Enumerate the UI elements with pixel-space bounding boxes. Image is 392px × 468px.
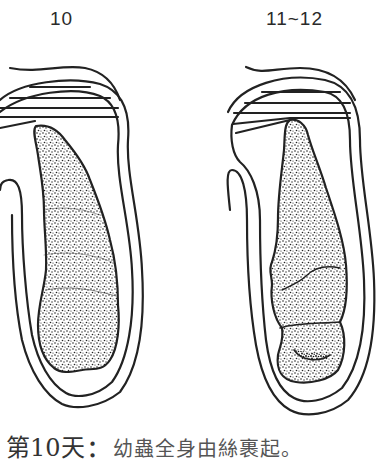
cocoon-day-11-12	[228, 67, 375, 414]
caption-separator: ：	[87, 436, 109, 461]
caption-day: 第10天	[6, 434, 85, 462]
cocoon-day-10	[0, 67, 143, 407]
caption-description: 幼蟲全身由絲裹起。	[113, 437, 302, 461]
caption: 第10天：幼蟲全身由絲裹起。	[6, 428, 302, 463]
cocoon-illustration	[0, 0, 392, 468]
